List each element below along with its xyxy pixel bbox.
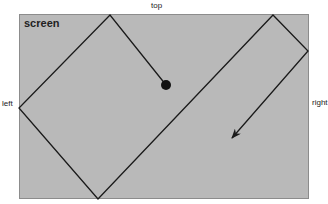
trajectory-path: [19, 15, 308, 199]
trajectory-diagram: [0, 0, 328, 204]
ball-start-dot: [161, 80, 171, 90]
